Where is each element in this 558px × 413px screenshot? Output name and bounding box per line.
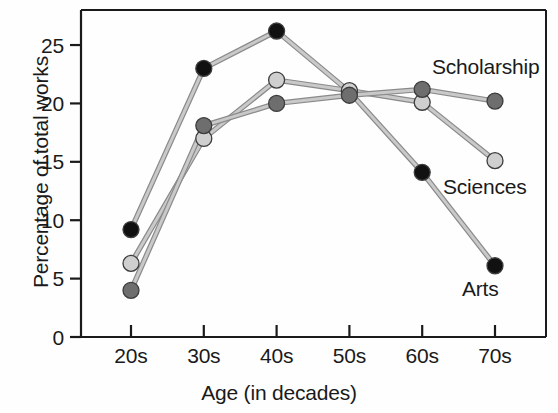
- data-point-marker: [269, 72, 285, 88]
- data-point-marker: [487, 153, 503, 169]
- series-annotation-label: Arts: [462, 277, 499, 300]
- x-axis-ticks: 20s30s40s50s60s70s: [114, 325, 511, 367]
- data-point-marker: [269, 23, 285, 39]
- data-point-marker: [487, 93, 503, 109]
- x-tick-label: 40s: [260, 344, 293, 367]
- y-tick-label: 5: [53, 267, 64, 290]
- chart-figure: Percentage of total works Age (in decade…: [0, 0, 558, 413]
- x-tick-label: 30s: [187, 344, 220, 367]
- data-point-marker: [123, 282, 139, 298]
- x-axis-title: Age (in decades): [0, 381, 558, 405]
- data-point-marker: [196, 60, 212, 76]
- series-annotation-label: Sciences: [443, 175, 527, 198]
- chart-canvas: 0510152025 20s30s40s50s60s70s Scholarshi…: [0, 0, 558, 413]
- data-point-marker: [123, 222, 139, 238]
- x-tick-label: 60s: [406, 344, 439, 367]
- x-tick-label: 50s: [333, 344, 366, 367]
- data-point-marker: [414, 81, 430, 97]
- data-point-marker: [269, 95, 285, 111]
- data-point-marker: [196, 118, 212, 134]
- data-point-marker: [487, 258, 503, 274]
- data-point-marker: [123, 255, 139, 271]
- x-tick-label: 70s: [478, 344, 511, 367]
- data-point-marker: [341, 87, 357, 103]
- y-tick-label: 0: [53, 326, 64, 349]
- y-axis-title: Percentage of total works: [29, 47, 53, 297]
- series-annotation-label: Scholarship: [432, 55, 540, 78]
- data-point-marker: [414, 164, 430, 180]
- x-tick-label: 20s: [114, 344, 147, 367]
